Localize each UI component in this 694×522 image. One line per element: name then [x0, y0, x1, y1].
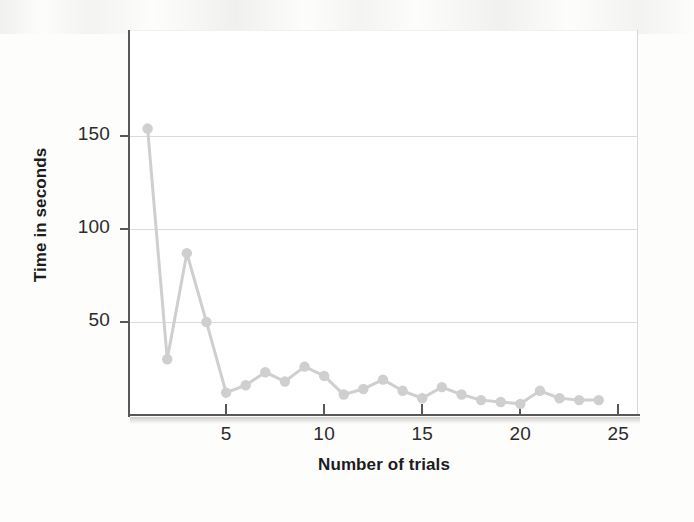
x-tick-label: 25: [595, 423, 641, 445]
y-tick-mark: [120, 321, 130, 323]
x-tick-label: 15: [399, 423, 445, 445]
x-tick-mark: [519, 404, 521, 415]
plot-frame-right: [637, 30, 638, 415]
gridline-y: [130, 229, 638, 230]
x-tick-mark: [225, 404, 227, 415]
gridline-y: [130, 136, 638, 137]
y-tick-label: 150: [42, 123, 110, 145]
x-tick-label: 5: [203, 423, 249, 445]
x-axis-line: [128, 414, 640, 416]
plot-area: [128, 30, 638, 415]
y-axis-line: [128, 30, 130, 417]
x-tick-mark: [421, 404, 423, 415]
y-tick-label: 50: [42, 309, 110, 331]
x-axis-title: Number of trials: [128, 455, 640, 475]
x-tick-label: 20: [497, 423, 543, 445]
y-tick-mark: [120, 228, 130, 230]
gridline-y: [130, 322, 638, 323]
y-tick-mark: [120, 135, 130, 137]
y-tick-label: 100: [42, 216, 110, 238]
line-chart-figure: 50100150 510152025 Time in seconds Numbe…: [0, 0, 694, 522]
y-axis-title: Time in seconds: [31, 110, 51, 320]
x-tick-label: 10: [301, 423, 347, 445]
x-tick-mark: [617, 404, 619, 415]
plot-frame-top: [128, 30, 638, 31]
x-tick-mark: [323, 404, 325, 415]
